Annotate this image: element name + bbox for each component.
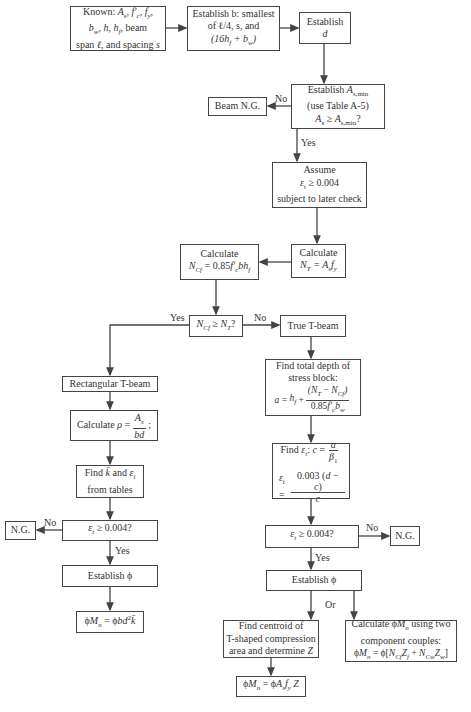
component-couples-box: Calculate ϕMn using two component couple… [345,620,457,662]
find-strain-box: Find εt: c = aβ1 εt = 0.003 (d − c)c [272,443,350,499]
establish-asmin-box: Establish As,min (use Table A-5) As ≥ As… [291,84,385,129]
left-strain-check: εt ≥ 0.004? [62,520,158,541]
edge-label-left-no: No [44,517,56,528]
known-inputs-box: Known: As, f′c, fy, bw, h, hf, beam span… [70,6,166,51]
left-ng-box: N.G. [5,521,36,540]
calculate-rho-box: Calculate ρ = Asbd ; [70,410,158,441]
calculate-nt-box: Calculate NT = Asfy [291,244,346,278]
assume-strain-box: Assume εt ≥ 0.004 subject to later check [272,162,367,208]
true-tbeam-box: True T-beam [280,315,346,337]
left-establish-phi-box: Establish ϕ [62,565,158,587]
edge-label-asmin-no: No [275,93,287,104]
edge-label-asmin-yes: Yes [301,137,316,148]
edge-label-ncf-no: No [254,312,266,323]
establish-b-box: Establish b: smallest of ℓ/4, s, and (16… [187,6,280,51]
rectangular-tbeam-box: Rectangular T-beam [62,376,158,392]
establish-d-box: Establish d [299,12,351,44]
edge-label-left-yes: Yes [115,545,130,556]
stress-block-depth-box: Find total depth of stress block: a = hf… [265,359,361,416]
beam-ng-box: Beam N.G. [208,97,267,116]
right-strain-check: εt ≥ 0.004? [265,525,359,548]
decision-ncf-vs-nt: NCf ≥ NT? [189,315,243,337]
right-ng-box: N.G. [390,526,420,546]
calculate-ncf-box: Calculate NCf = 0.85f′cbhf [180,244,259,280]
edge-label-right-yes: Yes [315,552,330,563]
edge-label-ncf-yes: Yes [170,312,185,323]
right-mn-result-box: ϕMn = ϕAsfy Z [236,676,306,697]
edge-label-right-no: No [366,522,378,533]
edge-label-or: Or [325,599,336,610]
find-centroid-box: Find centroid of T-shaped compression ar… [223,620,319,658]
right-establish-phi-box: Establish ϕ [266,570,362,591]
find-k-box: Find k̄ and εt from tables [76,465,144,498]
left-mn-result-box: ϕMn = ϕbd2k̄ [76,611,144,633]
